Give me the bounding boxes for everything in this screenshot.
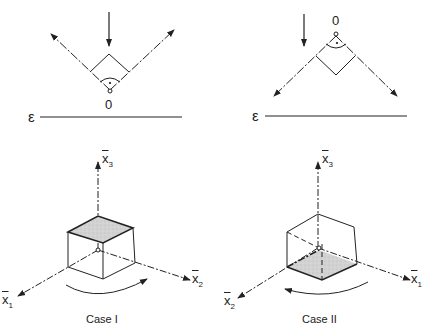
axis-label-x3: x3 — [102, 152, 113, 169]
surface-label: ε — [252, 108, 259, 123]
case-caption: Case I — [86, 314, 118, 325]
case-1-cube — [18, 162, 190, 296]
axis-label-x1: x1 — [2, 293, 13, 310]
axis-label-x2: x2 — [224, 294, 235, 311]
case-2-cube — [238, 162, 410, 298]
origin-point — [108, 89, 112, 93]
surface-label: ε — [28, 109, 35, 124]
angle-arc — [326, 44, 346, 48]
case-caption: Case II — [302, 314, 337, 325]
reflected-ray-right — [110, 30, 174, 90]
origin-label: 0 — [105, 98, 112, 111]
rotation-arrow — [285, 282, 368, 294]
figure-canvas — [0, 0, 431, 336]
right-angle-box — [90, 54, 129, 72]
angle-arc — [100, 78, 120, 82]
axis-label-x3: x3 — [322, 152, 333, 169]
origin-point — [334, 32, 338, 36]
axis-label-x1: x1 — [411, 272, 422, 289]
origin-point — [317, 246, 321, 250]
shaded-top-face — [68, 216, 133, 243]
origin-point — [96, 248, 100, 252]
axis-label-x2: x2 — [192, 272, 203, 289]
origin-label: 0 — [332, 14, 339, 27]
right-angle-box — [316, 56, 355, 75]
axis-x2 — [98, 250, 190, 280]
rotation-arrow — [66, 279, 147, 294]
case-2-reflection — [265, 14, 407, 116]
